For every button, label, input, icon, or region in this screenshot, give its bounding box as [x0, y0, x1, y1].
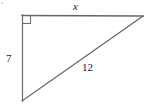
- right-triangle-figure: x 7 12: [0, 0, 144, 109]
- side-label-vertical: 7: [6, 53, 12, 64]
- right-angle-marker-icon: [23, 16, 31, 24]
- side-label-top: x: [73, 1, 78, 12]
- triangle-side-hypotenuse: [22, 16, 143, 101]
- triangle-side-top: [22, 16, 143, 17]
- triangle-svg: [0, 0, 144, 109]
- side-label-hypotenuse: 12: [82, 62, 93, 73]
